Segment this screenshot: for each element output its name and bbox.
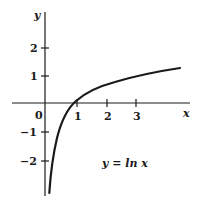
- y-tick-label-m1: −1: [20, 126, 37, 139]
- ln-curve: [49, 68, 180, 193]
- y-tick-label-m2: −2: [20, 155, 37, 168]
- origin-label: 0: [35, 109, 43, 122]
- x-tick-label-1: 1: [74, 110, 82, 123]
- x-axis-label: x: [182, 107, 190, 120]
- x-tick-label-2: 2: [104, 110, 112, 123]
- ln-graph: y x 2 1 −1 −2 0 1 2 3 y = ln x: [0, 0, 200, 198]
- y-tick-label-1: 1: [30, 70, 38, 83]
- chart-figure: y x 2 1 −1 −2 0 1 2 3 y = ln x: [0, 0, 200, 198]
- x-tick-label-3: 3: [133, 110, 141, 123]
- equation-label: y = ln x: [101, 157, 148, 170]
- y-tick-label-2: 2: [30, 42, 38, 55]
- y-axis-label: y: [33, 9, 42, 22]
